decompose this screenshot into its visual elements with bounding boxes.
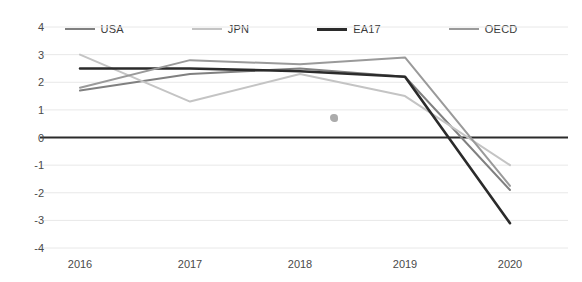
x-axis-label: 2018	[288, 258, 312, 270]
x-axis-label: 2016	[68, 258, 92, 270]
x-axis-label: 2017	[178, 258, 202, 270]
x-axis-label: 2020	[498, 258, 522, 270]
chart-container: USA JPN EA17 OECD 43210-1-2-3-4 20162017…	[0, 0, 582, 282]
x-axis-label: 2019	[393, 258, 417, 270]
stray-mark	[330, 114, 338, 122]
x-axis-ticks: 20162017201820192020	[0, 0, 582, 282]
